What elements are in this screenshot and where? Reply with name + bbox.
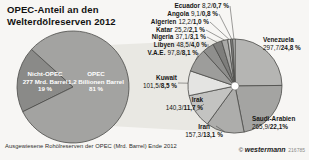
label-vae: V.A.E.97,8/8,1 %	[148, 49, 198, 57]
publisher-name: westermann	[245, 146, 286, 153]
label-ecuador: Ecuador8,2/0,7 %	[174, 2, 229, 10]
leader-line-ecuador	[230, 6, 234, 39]
label-angola: Angola9,1/0,8 %	[167, 10, 218, 18]
leader-line-angola	[219, 14, 232, 39]
pie-center-hole	[231, 82, 239, 90]
chart-title: OPEC-Anteil an den Welterdölreserven 201…	[7, 4, 116, 27]
label-nigeria: Nigeria37,1/3,1 %	[152, 33, 206, 41]
label-algerien: Algerien12,2/1,0 %	[151, 18, 209, 26]
label-irak: Irak 140,3/11,7 %	[166, 96, 203, 111]
opec-amount: 1,2 Billionen Barrel	[63, 78, 129, 86]
chart-title-line2: Welterdölreserven 2012	[7, 16, 116, 28]
source-caption: Ausgewiesene Rohölreserven der OPEC (Mrd…	[5, 143, 177, 149]
label-opec: OPEC 1,2 Billionen Barrel 81 %	[63, 70, 129, 93]
label-libyen: Libyen48,5/4,0 %	[154, 41, 207, 49]
label-saudi-arabien: Saudi-Arabien 265,9/22,1%	[252, 115, 295, 130]
chart-title-line1: OPEC-Anteil an den	[7, 4, 116, 16]
label-kuwait: Kuwait 101,5/8,5 %	[143, 74, 177, 89]
publisher-credit: © westermann 216785	[239, 146, 305, 153]
label-venezuela: Venezuela 297,7/24,8 %	[263, 36, 301, 51]
leader-line-algerien	[210, 22, 229, 39]
figure-code: 216785	[288, 147, 305, 153]
copyright-symbol: ©	[239, 147, 243, 153]
opec-name: OPEC	[63, 70, 129, 78]
leader-line-katar	[206, 30, 225, 40]
label-iran: Iran 157,3/13,1 %	[178, 123, 230, 138]
infographic-opec-oil-reserves: OPEC-Anteil an den Welterdölreserven 201…	[0, 0, 309, 160]
opec-share: 81 %	[63, 85, 129, 93]
